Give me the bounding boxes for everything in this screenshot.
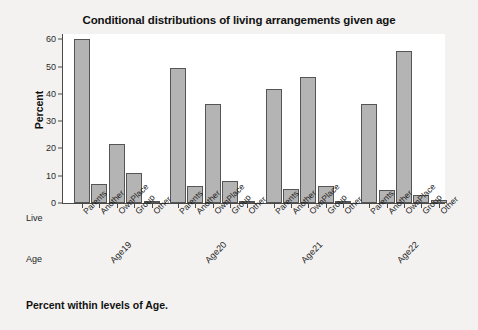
- y-tick-label: 40: [26, 89, 56, 99]
- chart-title: Conditional distributions of living arra…: [0, 14, 478, 26]
- bar: [361, 104, 377, 203]
- y-tick-label: 30: [26, 116, 56, 126]
- group-label: Age22: [395, 240, 420, 265]
- y-tick-label: 10: [26, 171, 56, 181]
- bar: [300, 77, 316, 203]
- group-label: Age20: [203, 240, 228, 265]
- y-axis-title: Percent: [33, 67, 45, 153]
- y-tick-label: 60: [26, 34, 56, 44]
- row-header-live: Live: [26, 213, 43, 223]
- group-label: Age21: [299, 240, 324, 265]
- chart-page: Conditional distributions of living arra…: [0, 0, 478, 330]
- bar: [205, 104, 221, 203]
- bars-layer: [62, 34, 445, 203]
- footer-note: Percent within levels of Age.: [26, 299, 168, 311]
- bar: [170, 68, 186, 203]
- bar: [74, 39, 90, 203]
- group-label: Age19: [108, 240, 133, 265]
- row-header-age: Age: [26, 254, 42, 264]
- bar: [396, 51, 412, 203]
- bar: [266, 89, 282, 203]
- y-tick-label: 0: [26, 198, 56, 208]
- y-tick-label: 20: [26, 143, 56, 153]
- y-tick-label: 50: [26, 62, 56, 72]
